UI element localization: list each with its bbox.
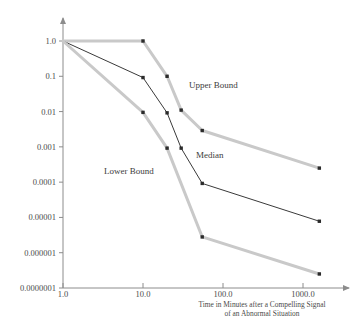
series-lower-bound: [63, 41, 321, 276]
series-label-upper-bound: Upper Bound: [189, 80, 238, 90]
series-line: [63, 41, 319, 168]
x-tick-label: 1000.0: [291, 289, 314, 299]
y-tick-label: 0.000001: [24, 248, 56, 258]
series-median: [63, 41, 321, 223]
y-tick-label: 0.01: [41, 107, 56, 117]
log-log-chart: 1.00.10.010.0010.00010.000010.0000010.00…: [0, 0, 364, 328]
chart-container: 1.00.10.010.0010.00010.000010.0000010.00…: [0, 0, 364, 328]
data-point-marker: [179, 146, 182, 149]
series-line: [63, 41, 319, 274]
series-line: [63, 41, 319, 221]
y-tick-label: 0.0000001: [20, 283, 56, 293]
data-point-marker: [141, 39, 144, 42]
data-point-marker: [201, 129, 204, 132]
x-tick-label: 100.0: [213, 289, 232, 299]
data-series-layer: [63, 39, 321, 275]
data-point-marker: [318, 272, 321, 275]
data-point-marker: [318, 220, 321, 223]
x-axis-caption-line-2: of an Abnormal Situation: [225, 309, 300, 318]
y-tick-label: 1.0: [45, 36, 56, 46]
series-label-median: Median: [196, 150, 224, 160]
x-axis-caption-line-1: Time in Minutes after a Compelling Signa…: [198, 300, 325, 309]
data-point-marker: [165, 75, 168, 78]
data-point-marker: [165, 146, 168, 149]
data-point-marker: [141, 111, 144, 114]
data-point-marker: [201, 235, 204, 238]
x-tick-label: 1.0: [58, 289, 69, 299]
y-tick-label: 0.0001: [33, 177, 56, 187]
y-axis-ticks: 1.00.10.010.0010.00010.000010.0000010.00…: [20, 36, 63, 293]
y-tick-label: 0.1: [45, 71, 56, 81]
x-axis-ticks: 1.010.0100.01000.0: [58, 283, 315, 299]
x-axis-caption: Time in Minutes after a Compelling Signa…: [198, 300, 325, 318]
series-label-lower-bound: Lower Bound: [104, 166, 154, 176]
data-point-marker: [201, 182, 204, 185]
data-point-marker: [318, 166, 321, 169]
y-tick-label: 0.00001: [28, 212, 56, 222]
data-point-marker: [179, 108, 182, 111]
x-tick-label: 10.0: [136, 289, 151, 299]
data-point-marker: [165, 111, 168, 114]
data-point-marker: [141, 76, 144, 79]
y-tick-label: 0.001: [37, 142, 56, 152]
